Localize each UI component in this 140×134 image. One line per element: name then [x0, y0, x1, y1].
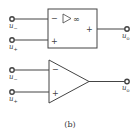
top-opamp-symbol — [10, 9, 129, 48]
inverting-input-label: u− — [9, 22, 18, 31]
inverting-sign: − — [52, 65, 59, 74]
inverting-input-terminal — [10, 68, 14, 72]
noninverting-input-label: u+ — [9, 95, 18, 104]
inverting-input-terminal — [10, 17, 14, 21]
output-label: uo — [122, 32, 130, 41]
infinity-gain-symbol: ∞ — [73, 15, 80, 24]
noninverting-sign: + — [51, 37, 58, 46]
noninverting-input-terminal — [10, 38, 14, 42]
bottom-opamp-symbol — [10, 60, 129, 103]
figure-caption: (b) — [64, 120, 75, 129]
inverting-sign: − — [51, 14, 58, 23]
output-label: uo — [122, 84, 130, 93]
noninverting-input-label: u+ — [9, 43, 18, 52]
opamp-diagram: − ∞ + + u− u+ uo − + u− u+ uo (b) — [0, 0, 140, 134]
noninverting-input-terminal — [10, 90, 14, 94]
amplifier-triangle-icon — [63, 14, 71, 23]
noninverting-sign: + — [52, 89, 59, 98]
output-terminal — [125, 27, 129, 31]
output-sign: + — [86, 25, 93, 34]
inverting-input-label: u− — [9, 73, 18, 82]
